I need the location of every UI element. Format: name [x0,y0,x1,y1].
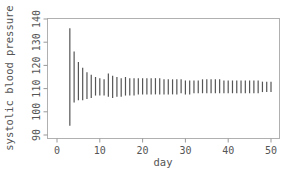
x-axis-label: day [154,156,173,168]
x-tick-label: 30 [179,145,191,156]
y-axis: 90100110120130140 [31,10,48,141]
y-axis-label: systolic blood pressure [3,5,15,150]
y-tick-label: 110 [31,80,42,98]
interval-segments [70,28,271,125]
x-tick-label: 50 [265,145,277,156]
y-tick-label: 100 [31,103,42,121]
x-tick-label: 40 [222,145,234,156]
x-tick-label: 0 [54,145,60,156]
y-tick-label: 140 [31,10,42,28]
y-tick-label: 120 [31,56,42,74]
x-axis: 01020304050 [54,139,277,157]
y-tick-label: 130 [31,33,42,51]
x-tick-label: 20 [137,145,149,156]
chart: 01020304050 90100110120130140 day systol… [0,0,295,179]
y-tick-label: 90 [31,129,42,141]
x-tick-label: 10 [94,145,106,156]
